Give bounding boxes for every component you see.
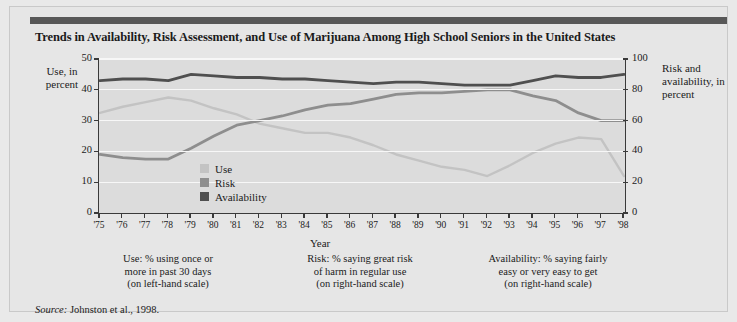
y-axis-tick-right	[623, 120, 628, 121]
caption-line: easy or very easy to get	[453, 266, 643, 279]
y-axis-tick-left	[94, 89, 99, 90]
caption-availability: Availability: % saying fairlyeasy or ver…	[453, 253, 643, 291]
caption-line: Use: % using once or	[73, 253, 263, 266]
legend-label-risk: Risk	[215, 177, 235, 189]
y-axis-tick-right	[623, 58, 628, 59]
x-axis-tick	[121, 213, 122, 218]
source-note: Source: Johnston et al., 1998.	[35, 304, 159, 315]
y-axis-tick-label-right: 60	[632, 114, 662, 125]
x-axis-tick-label: '98	[610, 220, 636, 230]
y-axis-tick-right	[623, 151, 628, 152]
legend-item-risk: Risk	[200, 176, 267, 189]
caption-line: (on right-hand scale)	[453, 278, 643, 291]
x-axis-tick	[303, 213, 304, 218]
x-axis-tick	[417, 213, 418, 218]
source-prefix: Source:	[35, 304, 67, 315]
y-axis-tick-label-right: 0	[632, 206, 662, 217]
x-axis-tick	[531, 213, 532, 218]
y-axis-tick-label-left: 0	[64, 206, 92, 217]
gridline	[99, 182, 625, 183]
caption-line: (on right-hand scale)	[265, 278, 455, 291]
x-axis-tick	[167, 213, 168, 218]
x-axis-tick	[394, 213, 395, 218]
legend-label-availability: Availability	[215, 191, 267, 203]
y-axis-tick-right	[623, 212, 628, 213]
chart-title: Trends in Availability, Risk Assessment,…	[35, 30, 615, 45]
y-axis-tick-label-left: 40	[64, 83, 92, 94]
caption-line: (on left-hand scale)	[73, 278, 263, 291]
x-axis-tick	[189, 213, 190, 218]
panel-header-bar	[30, 17, 727, 24]
x-axis-label: Year	[310, 237, 330, 249]
legend-swatch-risk	[200, 178, 209, 187]
y-axis-tick-left	[94, 120, 99, 121]
chart-panel: Trends in Availability, Risk Assessment,…	[9, 6, 728, 312]
caption-line: more in past 30 days	[73, 266, 263, 279]
x-axis-tick	[508, 213, 509, 218]
gridline	[99, 58, 625, 59]
legend-item-availability: Availability	[200, 190, 267, 203]
legend-item-use: Use	[200, 162, 267, 175]
series-line-use	[100, 98, 624, 177]
legend-swatch-use	[200, 164, 209, 173]
y-axis-tick-left	[94, 58, 99, 59]
gridline	[99, 120, 625, 121]
y-axis-tick-label-left: 20	[64, 144, 92, 155]
y-axis-tick-left	[94, 151, 99, 152]
x-axis-tick	[258, 213, 259, 218]
x-axis-tick	[349, 213, 350, 218]
x-axis-tick	[440, 213, 441, 218]
x-axis-tick	[212, 213, 213, 218]
y-axis-tick-left	[94, 182, 99, 183]
y-axis-tick-label-right: 100	[632, 52, 662, 63]
caption-line: Risk: % saying great risk	[265, 253, 455, 266]
source-text: Johnston et al., 1998.	[70, 304, 159, 315]
x-axis-tick	[98, 213, 99, 218]
series-canvas	[99, 59, 625, 213]
caption-line: of harm in regular use	[265, 266, 455, 279]
legend-swatch-availability	[200, 192, 209, 201]
gridline	[99, 151, 625, 152]
y-axis-tick-label-right: 40	[632, 144, 662, 155]
x-axis-tick	[600, 213, 601, 218]
y-axis-tick-label-left: 10	[64, 175, 92, 186]
y-axis-tick-label-left: 30	[64, 114, 92, 125]
x-axis-tick	[554, 213, 555, 218]
caption-line: Availability: % saying fairly	[453, 253, 643, 266]
caption-risk: Risk: % saying great riskof harm in regu…	[265, 253, 455, 291]
plot-area	[98, 59, 626, 214]
x-axis-tick	[235, 213, 236, 218]
series-svg	[99, 59, 625, 213]
chart-legend: Use Risk Availability	[200, 162, 267, 204]
x-axis-tick	[622, 213, 623, 218]
y-axis-tick-right	[623, 182, 628, 183]
right-axis-label: Risk and availability, in percent	[662, 62, 737, 101]
y-axis-tick-label-left: 50	[64, 52, 92, 63]
y-axis-tick-right	[623, 89, 628, 90]
gridline	[99, 89, 625, 90]
x-axis-tick	[463, 213, 464, 218]
x-axis-tick	[144, 213, 145, 218]
series-line-availability	[100, 74, 624, 85]
y-axis-tick-label-right: 20	[632, 175, 662, 186]
caption-use: Use: % using once ormore in past 30 days…	[73, 253, 263, 291]
x-axis-tick	[577, 213, 578, 218]
x-axis-tick	[326, 213, 327, 218]
y-axis-tick-label-right: 80	[632, 83, 662, 94]
x-axis-tick	[372, 213, 373, 218]
x-axis-tick	[486, 213, 487, 218]
x-axis-tick	[281, 213, 282, 218]
legend-label-use: Use	[215, 163, 232, 175]
